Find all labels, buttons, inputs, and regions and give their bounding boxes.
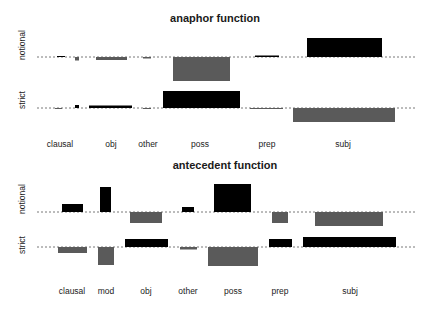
chart-title: anaphor function — [170, 12, 260, 24]
bar-strict-poss — [208, 247, 258, 266]
tick-label-obj: obj — [105, 139, 116, 149]
row-label-strict: strict — [17, 235, 27, 254]
category-axis: clausalmodobjotherpossprepsubj — [59, 286, 358, 296]
tick-label-poss: poss — [191, 139, 209, 149]
bar-strict-obj — [89, 106, 132, 109]
panel-antecedent-function: antecedent function notional strict clau… — [17, 159, 415, 296]
tick-label-prep: prep — [271, 286, 288, 296]
tick-label-subj: subj — [342, 286, 358, 296]
row-label-notional: notional — [17, 184, 27, 214]
chart-title: antecedent function — [173, 159, 278, 171]
bar-notional-mod — [100, 187, 111, 212]
bar-strict-prep — [269, 239, 292, 247]
panel-anaphor-function: anaphor function notional strict clausal… — [17, 12, 415, 149]
bar-notional-subj — [307, 38, 382, 57]
bar-strict-obj — [125, 239, 168, 247]
bar-notional-obj — [130, 212, 162, 223]
bar-strict-poss — [163, 91, 240, 108]
tick-label-prep: prep — [258, 139, 275, 149]
bar-strict-subj — [293, 108, 395, 122]
tick-label-clausal: clausal — [47, 139, 74, 149]
bar-notional-clausal — [62, 204, 83, 212]
tick-label-other: other — [138, 139, 158, 149]
bar-notional-poss — [173, 57, 230, 81]
tick-label-clausal: clausal — [59, 286, 86, 296]
bar-notional-subj — [315, 212, 383, 226]
bar-notional-other — [182, 207, 194, 212]
tick-label-subj: subj — [335, 139, 351, 149]
tick-label-obj: obj — [140, 286, 151, 296]
bar-notional-other — [143, 57, 151, 59]
bar-notional-prep — [255, 56, 279, 58]
bar-group — [55, 38, 395, 122]
tick-label-mod: mod — [98, 286, 115, 296]
bar-strict-mod — [98, 247, 114, 265]
bar-strict-clausal — [58, 247, 87, 253]
tick-label-poss: poss — [224, 286, 242, 296]
bar-notional-clausal — [75, 57, 79, 61]
row-label-notional: notional — [17, 30, 27, 60]
category-axis: clausalobjotherpossprepsubj — [47, 139, 351, 149]
bar-strict-clausal — [75, 105, 79, 108]
bar-strict-clausal — [55, 108, 62, 109]
bar-strict-other — [180, 247, 197, 250]
tick-label-other: other — [178, 286, 198, 296]
bar-strict-subj — [303, 237, 396, 247]
bar-strict-prep — [250, 108, 283, 109]
bar-notional-clausal — [57, 56, 65, 57]
bar-group — [58, 184, 396, 266]
bar-notional-poss — [214, 184, 251, 212]
bar-strict-other — [143, 108, 151, 109]
bar-notional-obj — [96, 57, 127, 60]
association-plot-figure: anaphor function notional strict clausal… — [0, 0, 430, 313]
bar-notional-prep — [272, 212, 288, 223]
row-label-strict: strict — [17, 90, 27, 109]
